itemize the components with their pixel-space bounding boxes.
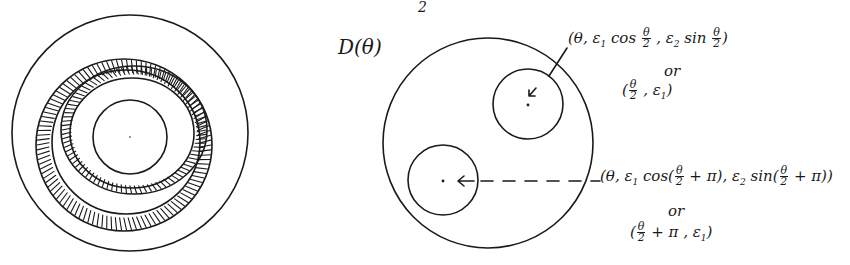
upper-arrow-icon xyxy=(529,88,536,96)
left-hatched-band-inner xyxy=(61,66,207,194)
lower-arrow-icon xyxy=(458,176,474,186)
page-fragment-number: 2 xyxy=(417,0,427,15)
lower-disk-coordinates: (θ, ε1 cos(θ2 + π), ε2 sin(θ2 + π)) xyxy=(600,166,833,187)
lower-or-text: or xyxy=(668,202,684,220)
lower-disk-center-dot xyxy=(442,180,445,183)
upper-or-text: or xyxy=(664,62,680,80)
upper-disk-center-dot xyxy=(527,104,530,107)
lower-disk-alt-coordinates: (θ2 + π , ε1) xyxy=(630,222,712,243)
upper-disk-coordinates: (θ, ε1 cos θ2 , ε2 sin θ2) xyxy=(568,28,728,49)
d-theta-outer-circle xyxy=(383,38,593,248)
left-center-dot xyxy=(129,136,131,138)
d-theta-title: D(θ) xyxy=(337,35,382,59)
left-outer-circle xyxy=(12,15,248,251)
upper-disk-alt-coordinates: (θ2 , ε1) xyxy=(622,80,672,101)
